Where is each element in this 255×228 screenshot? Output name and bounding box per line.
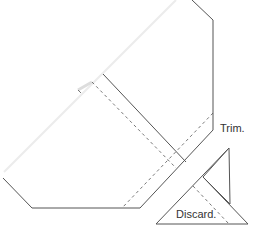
discard-label: Discard.: [176, 208, 216, 220]
discard-small-triangle: [203, 148, 230, 204]
strip-cut-line: [103, 74, 186, 162]
seam-line: [92, 82, 176, 168]
trim-label: Trim.: [220, 122, 245, 134]
fold-line: [4, 0, 176, 172]
quilt-cutting-diagram: Trim. Discard.: [0, 0, 255, 228]
fabric-outline: [3, 0, 213, 208]
